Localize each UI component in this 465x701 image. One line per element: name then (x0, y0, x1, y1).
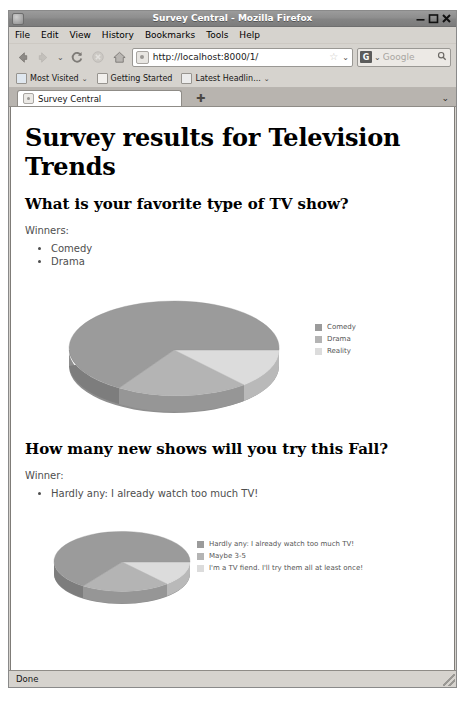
search-box[interactable]: G ⌄ Google (357, 48, 451, 67)
bookmark-getting-started[interactable]: Getting Started (97, 73, 173, 84)
reload-icon[interactable] (69, 49, 86, 66)
menu-item-edit[interactable]: Edit (41, 30, 58, 40)
legend-swatch-comedy (315, 324, 322, 331)
page-icon (97, 73, 108, 84)
pie-chart-1 (59, 278, 299, 418)
address-bar[interactable]: http://localhost:8000/1/ ☆ ⌄ (132, 48, 353, 67)
list-item: Drama (51, 255, 440, 268)
content-viewport: Survey results for Television Trends Wha… (10, 107, 455, 670)
status-text: Done (16, 674, 38, 684)
page-icon (23, 93, 34, 104)
legend-swatch-drama (315, 336, 322, 343)
chart-2-legend: Hardly any: I already watch too much TV!… (197, 540, 363, 572)
folder-icon (16, 73, 27, 84)
question-1-winners-list: Comedy Drama (25, 242, 440, 268)
close-icon[interactable] (441, 13, 452, 24)
question-2-winners-label: Winner: (25, 470, 440, 481)
bookmark-most-visited[interactable]: Most Visited ⌄ (16, 73, 88, 84)
menu-item-tools[interactable]: Tools (206, 30, 228, 40)
bookmark-label: Getting Started (111, 74, 173, 83)
url-text[interactable]: http://localhost:8000/1/ (153, 52, 326, 62)
bookmark-star-icon[interactable]: ☆ (329, 52, 338, 62)
minimize-icon[interactable] (415, 13, 426, 24)
back-icon[interactable] (14, 49, 31, 66)
legend-item: Hardly any: I already watch too much TV! (197, 540, 363, 548)
navigation-toolbar: ⌄ http://localhost:8000/1/ ☆ ⌄ G ⌄ Googl… (9, 44, 456, 70)
search-engine-dropdown-icon[interactable]: ⌄ (374, 53, 381, 62)
question-2-heading: How many new shows will you try this Fal… (25, 440, 440, 458)
list-item: Hardly any: I already watch too much TV! (51, 487, 440, 500)
search-go-icon[interactable] (437, 51, 448, 63)
legend-item: I'm a TV fiend. I'll try them all at lea… (197, 564, 363, 572)
legend-label: I'm a TV fiend. I'll try them all at lea… (209, 564, 363, 572)
bookmark-label: Latest Headlin... (195, 74, 260, 83)
menu-item-file[interactable]: File (15, 30, 30, 40)
stop-icon[interactable] (90, 49, 107, 66)
legend-swatch-hardly-any (197, 541, 204, 548)
maximize-icon[interactable] (428, 13, 439, 24)
title-bar[interactable]: Survey Central - Mozilla Firefox (9, 11, 456, 27)
legend-swatch-tv-fiend (197, 565, 204, 572)
tab-strip: Survey Central ✚ ⌄ (9, 88, 456, 107)
chevron-down-icon[interactable]: ⌄ (264, 75, 270, 83)
list-item: Comedy (51, 242, 440, 255)
search-input[interactable]: Google (383, 52, 435, 62)
menu-bar: File Edit View History Bookmarks Tools H… (9, 27, 456, 44)
forward-icon[interactable] (35, 49, 52, 66)
legend-label: Drama (327, 335, 351, 343)
bookmark-latest-headlines[interactable]: Latest Headlin... ⌄ (181, 73, 269, 84)
home-icon[interactable] (111, 49, 128, 66)
legend-item: Comedy (315, 323, 356, 331)
menu-item-view[interactable]: View (70, 30, 91, 40)
window-title: Survey Central - Mozilla Firefox (9, 11, 456, 26)
new-tab-button[interactable]: ✚ (196, 93, 205, 104)
tab-label: Survey Central (38, 94, 101, 104)
menu-item-bookmarks[interactable]: Bookmarks (145, 30, 195, 40)
legend-swatch-maybe (197, 553, 204, 560)
window-controls (415, 13, 456, 24)
history-dropdown-icon[interactable]: ⌄ (56, 53, 65, 62)
bookmarks-toolbar: Most Visited ⌄ Getting Started Latest He… (9, 70, 456, 88)
legend-item: Drama (315, 335, 356, 343)
window-resizer[interactable] (443, 674, 455, 686)
menu-item-history[interactable]: History (102, 30, 134, 40)
question-1-heading: What is your favorite type of TV show? (25, 195, 440, 213)
legend-swatch-reality (315, 348, 322, 355)
search-engine-icon[interactable]: G (360, 51, 372, 63)
legend-label: Maybe 3-5 (209, 552, 246, 560)
url-dropdown-icon[interactable]: ⌄ (342, 53, 349, 62)
tab-survey-central[interactable]: Survey Central (17, 90, 182, 106)
chart-1-legend: Comedy Drama Reality (315, 323, 356, 355)
bookmark-label: Most Visited (30, 74, 79, 83)
legend-label: Hardly any: I already watch too much TV! (209, 540, 354, 548)
browser-window: Survey Central - Mozilla Firefox File Ed… (8, 10, 457, 688)
page-title: Survey results for Television Trends (25, 123, 440, 181)
pie-chart-2 (47, 518, 197, 604)
rss-icon (181, 73, 192, 84)
status-bar: Done (9, 670, 456, 687)
site-identity-icon (136, 51, 149, 64)
legend-label: Reality (327, 347, 351, 355)
legend-label: Comedy (327, 323, 356, 331)
menu-item-help[interactable]: Help (239, 30, 260, 40)
legend-item: Maybe 3-5 (197, 552, 363, 560)
chart-1: Comedy Drama Reality (25, 278, 440, 418)
legend-item: Reality (315, 347, 356, 355)
question-1-winners-label: Winners: (25, 225, 440, 236)
page-body: Survey results for Television Trends Wha… (11, 107, 454, 604)
question-2-winners-list: Hardly any: I already watch too much TV! (25, 487, 440, 500)
chart-2: Hardly any: I already watch too much TV!… (25, 518, 440, 604)
chevron-down-icon[interactable]: ⌄ (82, 75, 88, 83)
list-all-tabs-icon[interactable]: ⌄ (441, 93, 449, 103)
